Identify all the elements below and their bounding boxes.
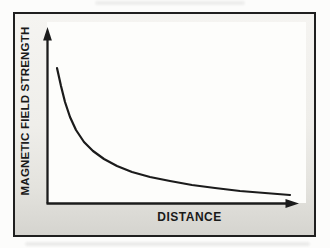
x-axis-label: DISTANCE bbox=[60, 210, 319, 224]
scan-artifact-bottom bbox=[25, 242, 310, 246]
plot-area bbox=[47, 22, 306, 203]
y-axis-label: MAGNETIC FIELD STRENGTH bbox=[18, 22, 32, 200]
scan-artifact-top bbox=[95, 1, 245, 5]
figure-page: MAGNETIC FIELD STRENGTH DISTANCE bbox=[0, 0, 330, 248]
